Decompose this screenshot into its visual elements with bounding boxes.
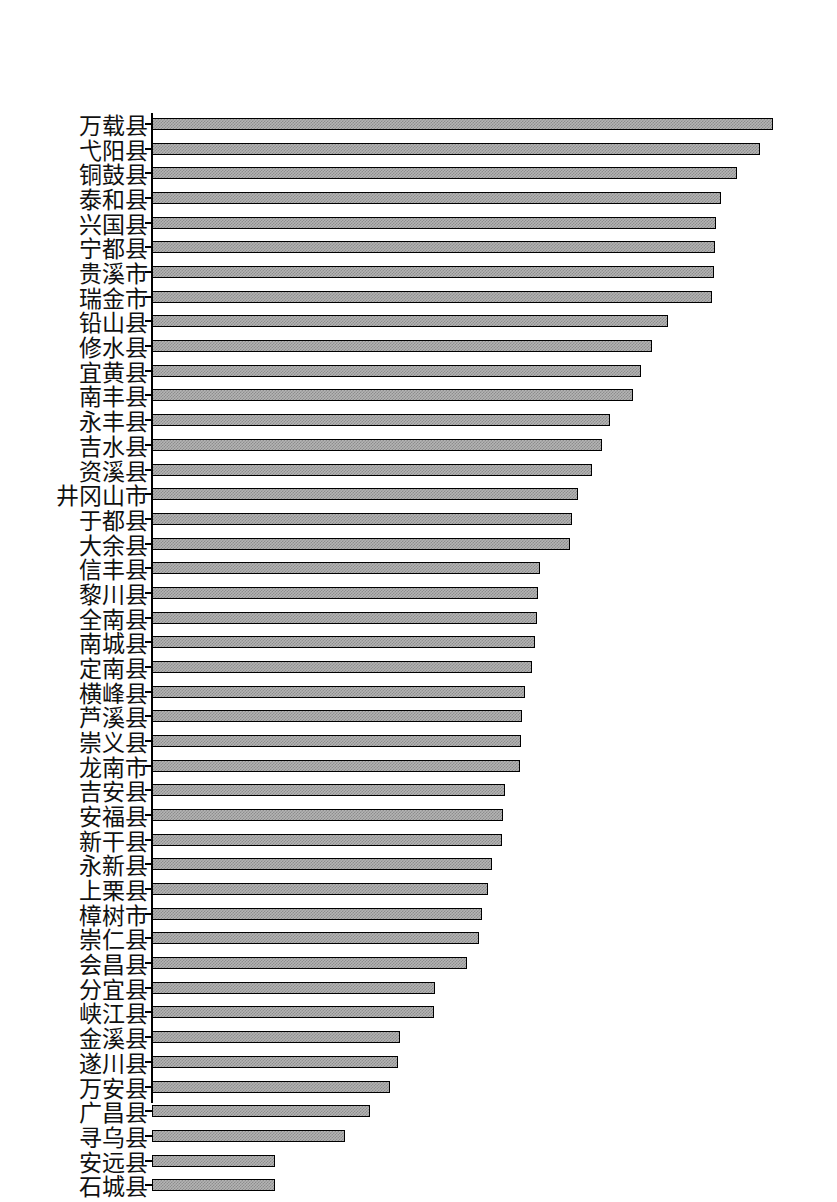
- category-label: 万载县: [0, 114, 148, 139]
- category-label: 资溪县: [0, 460, 148, 485]
- bar: [152, 1031, 400, 1043]
- bar: [152, 686, 525, 698]
- category-label: 新干县: [0, 830, 148, 855]
- bar: [152, 957, 467, 969]
- bar: [152, 143, 760, 155]
- category-label: 万安县: [0, 1077, 148, 1102]
- bar: [152, 908, 482, 920]
- category-label: 贵溪市: [0, 262, 148, 287]
- category-label: 会昌县: [0, 953, 148, 978]
- category-label: 全南县: [0, 608, 148, 633]
- category-label: 上栗县: [0, 879, 148, 904]
- bar: [152, 932, 479, 944]
- category-label: 分宜县: [0, 978, 148, 1003]
- bar: [152, 710, 522, 722]
- category-label: 吉安县: [0, 780, 148, 805]
- category-label: 铅山县: [0, 311, 148, 336]
- category-label: 泰和县: [0, 188, 148, 213]
- category-label: 横峰县: [0, 682, 148, 707]
- bar: [152, 834, 502, 846]
- bar: [152, 1081, 390, 1093]
- category-label: 广昌县: [0, 1101, 148, 1126]
- category-label: 安远县: [0, 1151, 148, 1176]
- bar: [152, 1105, 370, 1117]
- category-label: 信丰县: [0, 558, 148, 583]
- bar: [152, 1056, 398, 1068]
- category-label: 修水县: [0, 336, 148, 361]
- bar: [152, 636, 535, 648]
- category-label: 龙南市: [0, 756, 148, 781]
- category-label: 樟树市: [0, 904, 148, 929]
- category-label: 宜黄县: [0, 361, 148, 386]
- bar: [152, 784, 505, 796]
- bar-row: 石城县: [0, 1179, 837, 1202]
- category-label: 寻乌县: [0, 1126, 148, 1151]
- bar: [152, 661, 532, 673]
- category-label: 吉水县: [0, 435, 148, 460]
- bar: [152, 538, 570, 550]
- bar: [152, 1179, 275, 1191]
- category-label: 遂川县: [0, 1052, 148, 1077]
- category-label: 芦溪县: [0, 706, 148, 731]
- category-label: 于都县: [0, 509, 148, 534]
- bar: [152, 1130, 345, 1142]
- category-label: 南城县: [0, 632, 148, 657]
- bar: [152, 192, 721, 204]
- category-label: 宁都县: [0, 237, 148, 262]
- bar: [152, 266, 714, 278]
- bar: [152, 414, 610, 426]
- category-label: 安福县: [0, 805, 148, 830]
- category-label: 定南县: [0, 657, 148, 682]
- bar: [152, 464, 592, 476]
- bar: [152, 809, 503, 821]
- bar: [152, 1006, 434, 1018]
- category-label: 峡江县: [0, 1002, 148, 1027]
- category-label: 兴国县: [0, 213, 148, 238]
- bar: [152, 982, 435, 994]
- bar: [152, 760, 520, 772]
- bar: [152, 735, 521, 747]
- bar: [152, 858, 492, 870]
- category-label: 弋阳县: [0, 139, 148, 164]
- category-label: 崇仁县: [0, 928, 148, 953]
- bar: [152, 291, 712, 303]
- category-label: 黎川县: [0, 583, 148, 608]
- bar: [152, 513, 572, 525]
- bar: [152, 241, 715, 253]
- category-label: 南丰县: [0, 385, 148, 410]
- bar: [152, 389, 633, 401]
- bar: [152, 118, 773, 130]
- category-label: 永新县: [0, 854, 148, 879]
- bar: [152, 340, 652, 352]
- category-label: 崇义县: [0, 731, 148, 756]
- bar: [152, 587, 538, 599]
- bar: [152, 315, 668, 327]
- bar: [152, 883, 488, 895]
- category-label: 永丰县: [0, 410, 148, 435]
- bar: [152, 217, 716, 229]
- bar: [152, 167, 737, 179]
- category-label: 铜鼓县: [0, 163, 148, 188]
- category-label: 石城县: [0, 1175, 148, 1200]
- bar: [152, 439, 602, 451]
- category-label: 金溪县: [0, 1027, 148, 1052]
- bar: [152, 1155, 275, 1167]
- bar: [152, 365, 641, 377]
- category-label: 大余县: [0, 534, 148, 559]
- category-label: 瑞金市: [0, 287, 148, 312]
- bar: [152, 562, 540, 574]
- bar: [152, 488, 578, 500]
- bar: [152, 612, 537, 624]
- category-label: 井冈山市: [0, 484, 148, 509]
